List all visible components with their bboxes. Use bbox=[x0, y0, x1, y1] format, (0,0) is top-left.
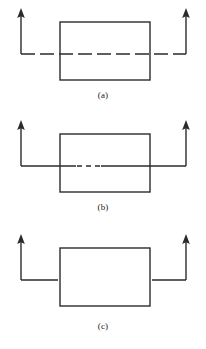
panel-a: (a) bbox=[0, 0, 206, 112]
panel-c: (c) bbox=[0, 226, 206, 349]
panel-c-caption: (c) bbox=[0, 321, 206, 331]
panel-c-rectangle bbox=[60, 248, 150, 306]
panel-b-rectangle bbox=[60, 134, 150, 192]
panel-b: (b) bbox=[0, 112, 206, 226]
panel-a-caption: (a) bbox=[0, 90, 206, 100]
figure-container: (a) (b) bbox=[0, 0, 206, 349]
panel-a-rectangle bbox=[60, 22, 150, 80]
panel-b-caption: (b) bbox=[0, 202, 206, 212]
